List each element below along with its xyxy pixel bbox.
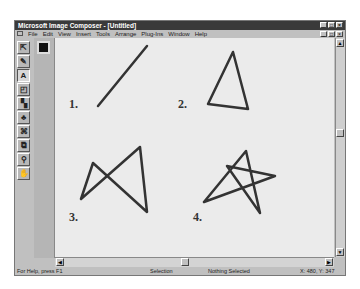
- scroll-up-button[interactable]: ▲: [336, 39, 344, 47]
- composition-canvas[interactable]: 1. 2. 3. 4.: [55, 38, 334, 257]
- zoom-tool[interactable]: ⚲: [17, 153, 30, 166]
- document-icon[interactable]: [17, 31, 23, 36]
- figure-line[interactable]: [98, 46, 147, 106]
- maximize-button[interactable]: □: [328, 22, 335, 28]
- text-icon: A: [21, 71, 27, 80]
- vertical-scroll-thumb[interactable]: [336, 129, 344, 137]
- figure-bowtie[interactable]: [81, 147, 147, 212]
- figure-label-3: 3.: [69, 210, 78, 224]
- crop-icon: ⧉: [21, 141, 27, 150]
- doc-restore-button[interactable]: □: [328, 31, 335, 37]
- menu-view[interactable]: View: [58, 30, 71, 38]
- vertical-scrollbar[interactable]: ▲ ▼: [335, 38, 345, 257]
- shapes-tool[interactable]: ◰: [17, 83, 30, 96]
- app-window: Microsoft Image Composer - [Untitled] _ …: [14, 20, 346, 276]
- effects-tool[interactable]: ▚: [17, 97, 30, 110]
- color-swatch[interactable]: [37, 41, 50, 54]
- scroll-right-button[interactable]: ▶: [325, 258, 333, 266]
- figure-label-4: 4.: [193, 210, 202, 224]
- paint-tool[interactable]: ✎: [17, 55, 30, 68]
- horizontal-scrollbar[interactable]: ◀ ▶: [55, 257, 334, 267]
- crop-tool[interactable]: ⧉: [17, 139, 30, 152]
- horizontal-scroll-thumb[interactable]: [181, 258, 189, 266]
- title-bar: Microsoft Image Composer - [Untitled] _ …: [15, 21, 345, 30]
- color-panel: [34, 38, 55, 258]
- texture-icon: ♣: [21, 113, 26, 122]
- text-tool[interactable]: A: [17, 69, 30, 82]
- hand-icon: ✋: [19, 169, 29, 178]
- toolbox: ⇱ ✎ A ◰ ▚ ♣ ⌘ ⧉ ⚲ ✋: [17, 41, 32, 180]
- status-mode: Selection: [150, 267, 173, 275]
- paintbrush-icon: ✎: [20, 57, 27, 66]
- scroll-left-button[interactable]: ◀: [56, 258, 64, 266]
- menu-plugins[interactable]: Plug-Ins: [141, 30, 163, 38]
- status-help: For Help, press F1: [17, 267, 63, 275]
- menu-tools[interactable]: Tools: [96, 30, 110, 38]
- menu-insert[interactable]: Insert: [76, 30, 91, 38]
- menu-bar: File Edit View Insert Tools Arrange Plug…: [15, 30, 345, 38]
- figure-label-1: 1.: [69, 97, 78, 111]
- cutout-tool[interactable]: ⌘: [17, 125, 30, 138]
- close-button[interactable]: ×: [336, 22, 343, 28]
- shapes-icon: ◰: [20, 85, 28, 94]
- figure-label-2: 2.: [178, 97, 187, 111]
- figure-triangle[interactable]: [208, 52, 248, 109]
- menu-edit[interactable]: Edit: [43, 30, 53, 38]
- status-bar: For Help, press F1 Selection Nothing Sel…: [15, 267, 345, 275]
- minimize-button[interactable]: _: [320, 22, 327, 28]
- menu-help[interactable]: Help: [195, 30, 207, 38]
- scroll-down-button[interactable]: ▼: [336, 248, 344, 256]
- pan-tool[interactable]: ✋: [17, 167, 30, 180]
- canvas-drawing: 1. 2. 3. 4.: [55, 38, 334, 257]
- effects-icon: ▚: [21, 99, 27, 108]
- doc-minimize-button[interactable]: _: [320, 31, 327, 37]
- figure-star[interactable]: [204, 151, 275, 213]
- magnifier-icon: ⚲: [21, 155, 27, 164]
- arrange-tool[interactable]: ⇱: [17, 41, 30, 54]
- cutout-icon: ⌘: [20, 127, 28, 136]
- texture-tool[interactable]: ♣: [17, 111, 30, 124]
- doc-close-button[interactable]: ×: [336, 31, 343, 37]
- menu-window[interactable]: Window: [168, 30, 189, 38]
- menu-file[interactable]: File: [28, 30, 38, 38]
- window-title: Microsoft Image Composer - [Untitled]: [18, 22, 136, 29]
- status-selection: Nothing Selected: [208, 267, 250, 275]
- menu-arrange[interactable]: Arrange: [115, 30, 136, 38]
- status-coordinates: X: 480, Y: 347: [300, 267, 334, 275]
- arrange-icon: ⇱: [20, 43, 27, 52]
